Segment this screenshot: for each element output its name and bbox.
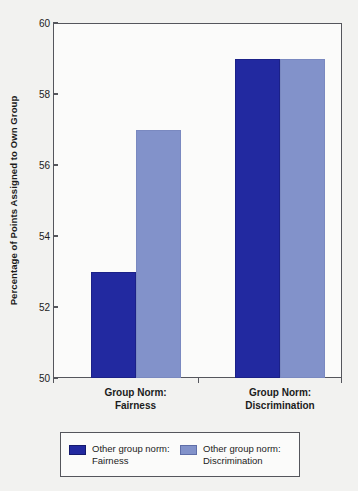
chart-legend: Other group norm: FairnessOther group no… bbox=[60, 432, 300, 477]
bar bbox=[280, 59, 325, 379]
y-axis-tick: 56 bbox=[34, 159, 53, 171]
y-axis-tick-mark bbox=[53, 22, 58, 23]
bar bbox=[235, 59, 280, 379]
y-axis-tick-label: 50 bbox=[34, 373, 50, 384]
x-axis-tick-mark bbox=[53, 378, 54, 383]
y-axis-title-text: Percentage of Points Assigned to Own Gro… bbox=[9, 95, 20, 305]
y-axis-tick: 52 bbox=[34, 301, 53, 313]
y-axis-tick-mark bbox=[53, 164, 58, 165]
legend-entry: Other group norm: Fairness bbox=[69, 443, 180, 466]
bar bbox=[136, 130, 181, 379]
x-axis-category-label-line: Group Norm: bbox=[208, 386, 352, 399]
y-axis-tick: 58 bbox=[34, 88, 53, 100]
y-axis-tick-label: 56 bbox=[34, 160, 50, 171]
x-axis-category-label-line: Fairness bbox=[64, 399, 208, 412]
legend-entry: Other group norm: Discrimination bbox=[180, 443, 291, 466]
y-axis-tick-mark bbox=[53, 306, 58, 307]
y-axis-tick: 60 bbox=[34, 17, 53, 29]
x-axis-labels: Group Norm:FairnessGroup Norm:Discrimina… bbox=[53, 386, 342, 420]
y-axis-title: Percentage of Points Assigned to Own Gro… bbox=[0, 0, 28, 400]
legend-label: Other group norm: Fairness bbox=[92, 443, 170, 466]
x-axis-tick-mark bbox=[198, 378, 199, 383]
y-axis-tick-label: 58 bbox=[34, 89, 50, 100]
legend-label: Other group norm: Discrimination bbox=[203, 443, 281, 466]
legend-swatch bbox=[180, 445, 197, 455]
x-axis-category-label: Group Norm:Discrimination bbox=[208, 386, 352, 412]
x-axis-category-label: Group Norm:Fairness bbox=[64, 386, 208, 412]
x-axis-category-label-line: Discrimination bbox=[208, 399, 352, 412]
y-axis-tick-mark bbox=[53, 235, 58, 236]
legend-swatch bbox=[69, 445, 86, 455]
x-axis-category-label-line: Group Norm: bbox=[64, 386, 208, 399]
y-axis-tick-mark bbox=[53, 93, 58, 94]
y-axis-tick: 50 bbox=[34, 372, 53, 384]
y-axis-tick: 54 bbox=[34, 230, 53, 242]
bar bbox=[91, 272, 136, 379]
y-axis-tick-label: 54 bbox=[34, 231, 50, 242]
bar-chart-figure: Percentage of Points Assigned to Own Gro… bbox=[0, 0, 358, 491]
plot-area: 505254565860 bbox=[53, 23, 342, 378]
x-axis-tick-mark bbox=[341, 378, 342, 383]
y-axis-tick-label: 52 bbox=[34, 302, 50, 313]
y-axis-tick-label: 60 bbox=[34, 18, 50, 29]
x-axis-ticks bbox=[53, 378, 342, 384]
